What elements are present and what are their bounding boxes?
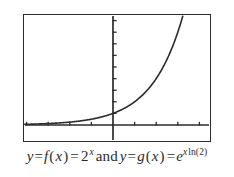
caption-y-right: y — [120, 148, 127, 164]
caption-base-2: 2 — [80, 148, 90, 164]
caption-g-open: ( — [145, 148, 152, 164]
caption-y-left: y — [27, 148, 34, 164]
caption-and: and — [94, 148, 120, 164]
caption-exponent-xln2: x ln(2) — [183, 147, 207, 157]
caption-g-name: g — [137, 148, 145, 164]
caption-g-var: x — [152, 148, 159, 164]
caption-g-close: ) — [159, 148, 166, 164]
caption-eq-4: = — [166, 148, 177, 164]
figure-container: y=f(x)=2xandy=g(x)=ex ln(2) — [0, 0, 234, 177]
figure-caption: y=f(x)=2xandy=g(x)=ex ln(2) — [0, 148, 234, 165]
caption-eq-1: = — [34, 148, 45, 164]
caption-eq-3: = — [127, 148, 138, 164]
plot-frame — [23, 14, 211, 142]
caption-eq-2: = — [69, 148, 80, 164]
